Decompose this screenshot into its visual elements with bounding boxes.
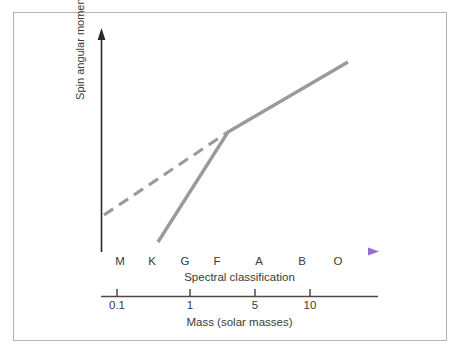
y-axis [98, 28, 106, 252]
spectral-label-o: O [328, 255, 348, 267]
spectral-label-g: G [175, 255, 195, 267]
spectral-label-a: A [249, 255, 269, 267]
spectral-label-k: K [142, 255, 162, 267]
spectral-label-f: F [207, 255, 227, 267]
plot-canvas [0, 0, 462, 353]
x-axis-mass [101, 289, 378, 297]
series-extrapolated-trend [104, 132, 228, 215]
mass-tick-label-1: 1 [172, 299, 208, 311]
spectral-label-m: M [110, 255, 130, 267]
y-axis-title: Spin angular momentum [74, 0, 86, 120]
spectral-label-b: B [292, 255, 312, 267]
mass-axis-title: Mass (solar masses) [101, 316, 378, 328]
mass-tick-label-0: 0.1 [99, 299, 135, 311]
mass-tick-label-3: 10 [292, 299, 328, 311]
spectral-axis-title: Spectral classification [101, 271, 378, 283]
mass-tick-label-2: 5 [237, 299, 273, 311]
figure-container: Spin angular momentum M K G F A B O Spec… [0, 0, 462, 353]
series-observed-spin-angular-momentum [158, 62, 348, 242]
